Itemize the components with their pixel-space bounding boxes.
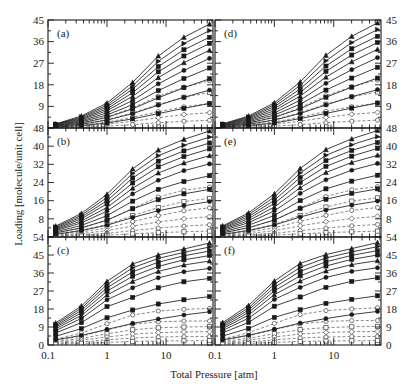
data-point-marker xyxy=(298,191,302,195)
data-point-marker xyxy=(350,335,354,339)
data-point-marker xyxy=(182,54,186,58)
data-point-marker xyxy=(156,286,160,290)
data-point-marker xyxy=(182,209,186,213)
data-point-marker xyxy=(207,174,211,178)
data-point-marker xyxy=(207,101,211,105)
panel-f: 5445362718900.1110(f) xyxy=(208,231,397,361)
data-point-marker xyxy=(207,66,211,70)
data-point-marker xyxy=(131,232,135,236)
y-tick-label: 18 xyxy=(386,303,398,315)
y-tick-label: 0 xyxy=(386,339,392,351)
data-point-marker xyxy=(182,280,186,284)
data-point-marker xyxy=(182,143,187,148)
data-point-marker xyxy=(182,313,186,317)
data-point-marker xyxy=(324,226,328,230)
y-tick-label: 36 xyxy=(386,267,398,279)
data-point-marker xyxy=(324,317,328,321)
panel-d: 453627189(d) xyxy=(215,14,398,130)
data-point-marker xyxy=(350,47,354,51)
data-point-marker xyxy=(207,141,211,145)
y-tick-label: 27 xyxy=(386,285,398,297)
data-point-marker xyxy=(349,329,354,334)
data-point-marker xyxy=(79,316,83,320)
data-point-marker xyxy=(156,326,160,330)
y-tick-label: 24 xyxy=(33,176,45,188)
data-point-marker xyxy=(350,179,354,183)
data-point-marker xyxy=(350,142,355,147)
series-group xyxy=(53,128,212,238)
data-point-marker xyxy=(207,266,211,270)
data-point-marker xyxy=(156,198,160,202)
data-point-marker xyxy=(324,301,328,305)
data-point-marker xyxy=(324,88,328,92)
data-point-marker xyxy=(182,224,186,228)
data-point-marker xyxy=(375,140,379,144)
data-point-marker xyxy=(272,213,276,217)
y-tick-label: 8 xyxy=(386,213,392,225)
data-point-marker xyxy=(298,308,302,312)
data-point-marker xyxy=(375,240,380,245)
x-tick-label: 1 xyxy=(272,349,278,361)
y-tick-label: 54 xyxy=(33,231,45,243)
data-point-marker xyxy=(207,254,211,258)
data-point-marker xyxy=(79,229,83,233)
data-point-marker xyxy=(298,199,302,203)
data-point-marker xyxy=(350,307,354,311)
data-point-marker xyxy=(105,214,109,218)
data-point-marker xyxy=(350,257,354,261)
data-point-marker xyxy=(298,232,302,236)
data-point-marker xyxy=(324,187,328,191)
data-point-marker xyxy=(375,128,380,133)
data-point-marker xyxy=(182,68,186,72)
data-point-marker xyxy=(350,148,354,152)
data-point-marker xyxy=(207,88,211,92)
data-point-marker xyxy=(131,176,135,180)
x-tick-label: 0.1 xyxy=(208,349,222,361)
data-point-marker xyxy=(182,192,186,196)
data-point-marker xyxy=(182,86,186,90)
data-point-marker xyxy=(156,302,160,306)
data-point-marker xyxy=(207,22,212,27)
data-point-marker xyxy=(182,319,186,323)
data-point-marker xyxy=(375,146,379,150)
data-point-marker xyxy=(375,101,379,105)
data-point-marker xyxy=(207,276,211,280)
data-point-marker xyxy=(207,110,212,115)
data-point-marker xyxy=(207,335,211,339)
data-point-marker xyxy=(207,77,211,81)
data-point-marker xyxy=(105,316,109,320)
panel-c: 5445362718900.1110(c) xyxy=(33,231,213,361)
data-point-marker xyxy=(79,124,83,128)
data-point-marker xyxy=(207,223,211,227)
data-point-marker xyxy=(181,112,186,117)
data-point-marker xyxy=(324,103,328,107)
data-point-marker xyxy=(156,264,160,268)
data-point-marker xyxy=(375,65,379,69)
data-point-marker xyxy=(298,111,302,115)
data-point-marker xyxy=(324,260,328,264)
data-point-marker xyxy=(324,275,328,279)
data-point-marker xyxy=(182,230,186,234)
data-point-marker xyxy=(349,59,354,64)
data-point-marker xyxy=(182,258,186,262)
data-point-marker xyxy=(131,215,135,219)
data-point-marker xyxy=(349,112,354,117)
data-point-marker xyxy=(182,119,186,123)
data-point-marker xyxy=(298,321,302,325)
data-point-marker xyxy=(207,295,211,299)
y-tick-label: 36 xyxy=(33,35,45,47)
data-point-marker xyxy=(246,229,250,233)
data-point-marker xyxy=(324,147,329,152)
data-point-marker xyxy=(298,285,302,289)
data-point-marker xyxy=(375,20,380,25)
y-tick-label: 16 xyxy=(386,194,398,206)
data-point-marker xyxy=(350,106,354,110)
y-tick-label: 45 xyxy=(386,249,398,261)
data-point-marker xyxy=(298,106,302,110)
data-point-marker xyxy=(350,85,354,89)
data-point-marker xyxy=(350,40,355,45)
data-point-marker xyxy=(182,199,186,203)
y-tick-label: 9 xyxy=(386,100,392,112)
data-point-marker xyxy=(156,88,160,92)
data-point-marker xyxy=(324,335,328,339)
